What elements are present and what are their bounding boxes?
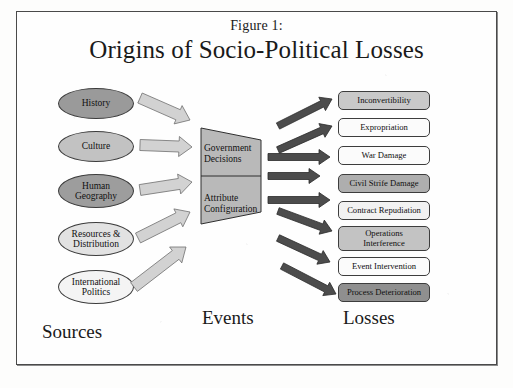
loss-label-line: Inconvertibility [357,96,410,105]
loss-node-process-deterioration[interactable]: Process Deterioration [338,283,430,302]
loss-label-line: Civil Strife Damage [349,179,418,188]
loss-node-war-damage[interactable]: War Damage [338,146,430,165]
loss-node-contract-repudiation[interactable]: Contract Repudiation [338,201,430,220]
column-caption-sources: Sources [42,321,102,343]
loss-node-event-intervention[interactable]: Event Intervention [338,257,430,276]
figure-canvas: Figure 1: Origins of Socio-Political Los… [0,0,513,388]
source-label-line: Culture [82,141,111,151]
source-label-line: International [72,277,121,287]
source-label-line: Politics [82,287,111,297]
loss-label-line: Expropriation [360,123,408,132]
loss-label-line: Process Deterioration [347,288,421,297]
event-label-attribute-configuration: Attribute Configuration [204,193,257,214]
source-label-line: Resources & [72,229,121,239]
source-label-line: History [82,98,111,108]
column-caption-losses: Losses [343,307,395,329]
event-label-line: Decisions [204,154,252,165]
event-label-line: Government [204,143,252,154]
loss-label-line: Interference [363,239,405,248]
event-label-line: Attribute [204,193,257,204]
loss-label-line: War Damage [362,151,407,160]
source-node-culture[interactable]: Culture [58,131,134,162]
source-label-line: Geography [75,191,117,201]
event-label-line: Configuration [204,204,257,215]
source-label-line: Human [82,181,110,191]
loss-node-inconvertibility[interactable]: Inconvertibility [338,91,430,110]
figure-number-label: Figure 1: [0,18,513,34]
source-node-international-politics[interactable]: International Politics [58,270,134,304]
column-caption-events: Events [202,307,254,329]
source-label-line: Distribution [73,239,119,249]
loss-node-operations-interference[interactable]: Operations Interference [338,226,430,251]
loss-node-civil-strife-damage[interactable]: Civil Strife Damage [338,174,430,193]
loss-label-line: Event Intervention [352,262,416,271]
loss-label-line: Contract Repudiation [347,206,421,215]
event-label-government-decisions: Government Decisions [204,143,252,164]
source-node-human-geography[interactable]: Human Geography [58,174,134,208]
source-node-resources-distribution[interactable]: Resources & Distribution [58,222,134,256]
loss-node-expropriation[interactable]: Expropriation [338,118,430,137]
figure-title: Origins of Socio-Political Losses [0,36,513,64]
source-node-history[interactable]: History [58,88,134,119]
